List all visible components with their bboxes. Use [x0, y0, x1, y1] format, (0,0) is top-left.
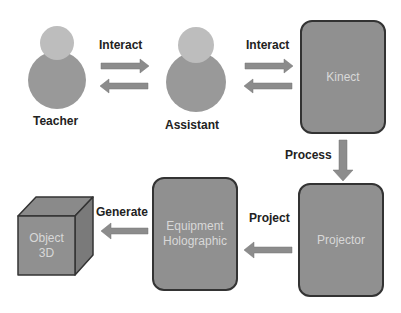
- arrow-assistant-to-teacher: [100, 79, 148, 93]
- kinect-node: Kinect: [300, 20, 386, 134]
- projector-node: Projector: [298, 183, 384, 297]
- equipment-holographic-node: Equipment Holographic: [152, 177, 238, 291]
- arrow-assistant-to-kinect: [245, 59, 293, 73]
- object-label-line2: 3D: [39, 246, 54, 261]
- arrow-equipment-to-object: [101, 223, 148, 239]
- arrow-projector-to-equipment: [244, 242, 292, 258]
- arrow-kinect-to-assistant: [244, 79, 292, 93]
- projector-label: Projector: [317, 233, 365, 248]
- assistant-label: Assistant: [165, 118, 219, 132]
- edge-label-process: Process: [285, 148, 332, 162]
- edge-label-interact-1: Interact: [99, 38, 142, 52]
- teacher-label: Teacher: [33, 114, 78, 128]
- object-3d-node: Object 3D: [18, 216, 75, 275]
- assistant-head: [178, 27, 214, 63]
- edge-label-generate: Generate: [96, 205, 148, 219]
- equipment-label-line2: Holographic: [163, 234, 227, 249]
- kinect-label: Kinect: [326, 70, 359, 85]
- arrow-kinect-to-projector: [333, 140, 353, 181]
- teacher-head: [40, 26, 74, 60]
- edge-label-project: Project: [249, 211, 290, 225]
- object-label-line1: Object: [29, 231, 64, 246]
- arrow-teacher-to-assistant: [101, 59, 149, 73]
- edge-label-interact-2: Interact: [246, 38, 289, 52]
- equipment-label-line1: Equipment: [166, 219, 223, 234]
